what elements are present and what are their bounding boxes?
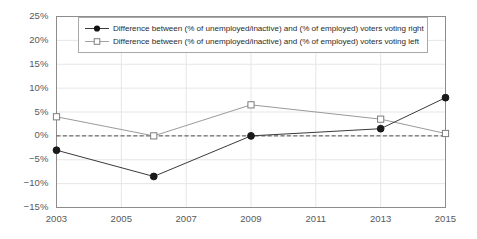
x-axis-tick-label: 2007 — [164, 213, 208, 224]
x-axis-tick-label: 2013 — [359, 213, 403, 224]
y-axis-tick-label: 15% — [0, 58, 49, 69]
data-point-marker — [378, 116, 384, 122]
y-axis-tick-label: 20% — [0, 34, 49, 45]
y-axis-tick-label: −5% — [0, 153, 49, 164]
legend-label-right: Difference between (% of unemployed/inac… — [113, 24, 424, 33]
y-axis-tick-label: 25% — [0, 10, 49, 21]
chart-legend: Difference between (% of unemployed/inac… — [78, 17, 428, 53]
data-point-marker — [442, 94, 449, 101]
open-square-marker-icon — [84, 36, 110, 47]
data-point-marker — [248, 132, 255, 139]
x-axis-tick-label: 2015 — [424, 213, 468, 224]
data-point-marker — [53, 114, 59, 120]
x-axis-tick-label: 2005 — [99, 213, 143, 224]
data-point-marker — [151, 133, 157, 139]
data-point-marker — [248, 102, 254, 108]
y-axis-tick-label: 0% — [0, 129, 49, 140]
legend-item-right[interactable]: Difference between (% of unemployed/inac… — [84, 22, 421, 35]
x-axis-tick-label: 2011 — [294, 213, 338, 224]
x-axis-tick-label: 2009 — [229, 213, 273, 224]
data-point-marker — [442, 130, 448, 136]
y-axis-tick-label: −10% — [0, 177, 49, 188]
data-point-marker — [150, 173, 157, 180]
legend-item-left[interactable]: Difference between (% of unemployed/inac… — [84, 35, 421, 48]
legend-label-left: Difference between (% of unemployed/inac… — [113, 37, 419, 46]
y-axis-tick-label: −15% — [0, 201, 49, 212]
y-axis-tick-label: 10% — [0, 82, 49, 93]
data-point-marker — [377, 125, 384, 132]
data-point-marker — [53, 147, 60, 154]
chart-container: 25%20%15%10%5%0%−5%−10%−15% 200320052007… — [0, 0, 477, 239]
filled-circle-marker-icon — [84, 23, 110, 34]
y-axis-tick-label: 5% — [0, 106, 49, 117]
x-axis-tick-label: 2003 — [35, 213, 79, 224]
